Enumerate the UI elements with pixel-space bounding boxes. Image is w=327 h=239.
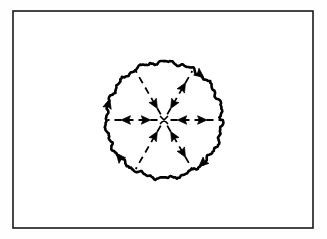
figure-drawing bbox=[0, 0, 327, 239]
figure-canvas bbox=[0, 0, 327, 239]
